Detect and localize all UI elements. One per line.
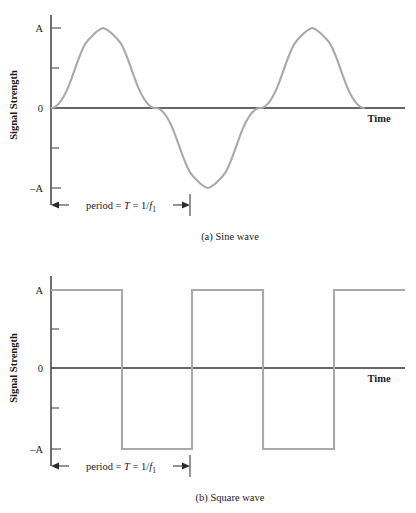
panel-square-wave: A 0 –A Signal Strength Time period = T =… [0, 256, 416, 513]
square-caption: (b) Square wave [196, 492, 265, 504]
sine-wave-plot: A 0 –A Signal Strength Time period = T =… [0, 0, 416, 256]
sine-period-subscript: 1 [152, 205, 156, 214]
square-period-arrow-left [51, 463, 59, 470]
square-ytick-label-a: A [35, 285, 43, 296]
square-y-axis-title: Signal Strength [8, 333, 19, 403]
square-period-equals: = 1/ [130, 461, 149, 472]
sine-ytick-label-a: A [35, 23, 43, 34]
square-period-subscript: 1 [152, 466, 156, 475]
square-period-prefix: period = [86, 461, 124, 472]
sine-period-prefix: period = [86, 200, 124, 211]
sine-period-arrow-left [51, 202, 59, 209]
figure-root: A 0 –A Signal Strength Time period = T =… [0, 0, 416, 513]
sine-x-axis-title: Time [367, 113, 390, 124]
square-x-axis-title: Time [367, 373, 390, 384]
sine-y-axis-title: Signal Strength [8, 70, 19, 140]
square-wave-plot: A 0 –A Signal Strength Time period = T =… [0, 256, 416, 513]
panel-sine-wave: A 0 –A Signal Strength Time period = T =… [0, 0, 416, 256]
square-period-arrow-right [182, 463, 190, 470]
square-wave-curve [51, 290, 405, 449]
sine-caption: (a) Sine wave [201, 231, 259, 243]
square-ytick-label-zero: 0 [38, 363, 43, 374]
sine-period-arrow-right [182, 202, 190, 209]
sine-ytick-label-zero: 0 [38, 103, 43, 114]
sine-period-equals: = 1/ [130, 200, 149, 211]
sine-ytick-label-neg-a: –A [29, 183, 43, 194]
square-ytick-label-neg-a: –A [29, 444, 43, 455]
